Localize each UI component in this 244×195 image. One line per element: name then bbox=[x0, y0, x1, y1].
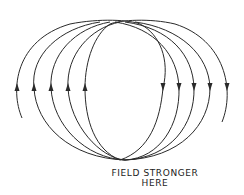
arrow-up-icon bbox=[49, 83, 54, 91]
field-lines-diagram bbox=[0, 0, 244, 195]
caption-line-1: FIELD STRONGER bbox=[100, 168, 210, 178]
field-loops bbox=[17, 20, 228, 160]
field-loop-1 bbox=[17, 20, 166, 160]
arrow-down-icon bbox=[177, 83, 182, 91]
arrow-down-icon bbox=[225, 83, 230, 91]
field-loop-4 bbox=[68, 22, 210, 160]
field-caption: FIELD STRONGER HERE bbox=[100, 168, 210, 188]
arrow-up-icon bbox=[15, 83, 20, 91]
arrow-up-icon bbox=[83, 83, 88, 91]
arrow-down-icon bbox=[192, 83, 197, 91]
caption-line-2: HERE bbox=[100, 178, 210, 188]
direction-arrows bbox=[15, 83, 230, 91]
arrow-up-icon bbox=[66, 83, 71, 91]
arrow-down-icon bbox=[208, 83, 213, 91]
arrow-down-icon bbox=[161, 83, 166, 91]
field-loop-3 bbox=[51, 22, 194, 160]
field-loop-2 bbox=[34, 22, 179, 160]
arrow-up-icon bbox=[32, 83, 37, 91]
field-loop-5 bbox=[85, 20, 227, 160]
